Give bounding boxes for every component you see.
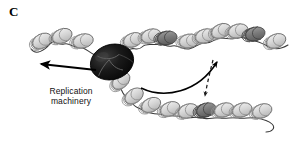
chromatin-replication-illustration	[0, 0, 301, 143]
nucleosome-transfer-arrow-dashed	[205, 60, 213, 96]
nucleosome	[247, 101, 274, 122]
replication-direction-arrow	[41, 64, 96, 70]
nucleosome-group-parental	[27, 26, 95, 54]
nucleosome-transfer-arrow-solid	[141, 62, 217, 93]
replication-machinery-caption: Replication machinery	[33, 86, 109, 107]
nucleosome	[27, 30, 55, 54]
panel-label: C	[9, 5, 18, 18]
figure-panel-c: C Replication machinery	[0, 0, 301, 143]
nucleosome-group-lower	[107, 69, 274, 122]
nucleosome-group-upper	[118, 21, 288, 53]
